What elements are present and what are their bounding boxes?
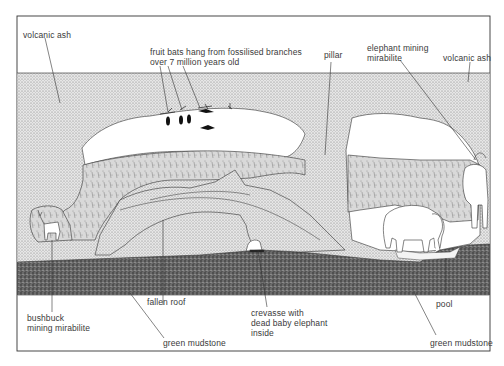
label-fruit-bats-line1: fruit bats hang from fossilised branches [150, 47, 302, 57]
label-volcanic-ash-right: volcanic ash [443, 53, 491, 63]
label-bushbuck-line2: mining mirabilite [27, 323, 90, 333]
label-crevasse-line3: inside [251, 328, 274, 338]
label-pillar: pillar [324, 50, 343, 60]
label-elephant-mining-line2: mirabilite [367, 53, 402, 63]
label-fallen-roof: fallen roof [147, 297, 185, 307]
label-pool: pool [436, 299, 452, 309]
label-volcanic-ash-left: volcanic ash [23, 30, 71, 40]
label-crevasse-line2: dead baby elephant [251, 318, 327, 328]
label-green-mudstone-right: green mudstone [430, 338, 493, 348]
label-elephant-mining-line1: elephant mining [367, 43, 429, 53]
label-fruit-bats-line2: over 7 million years old [150, 57, 239, 67]
label-crevasse-line1: crevasse with [251, 308, 304, 318]
label-bushbuck-line1: bushbuck [27, 313, 64, 323]
label-green-mudstone-center: green mudstone [163, 338, 226, 348]
